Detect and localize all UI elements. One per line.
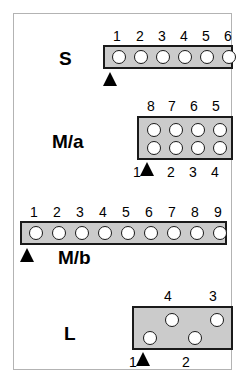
pin-mb-5[interactable] — [121, 226, 135, 240]
connector-body-l — [132, 306, 233, 350]
pin-marker-mb — [20, 248, 34, 262]
pin-l-1[interactable] — [143, 331, 157, 345]
pin-ma-1[interactable] — [147, 141, 161, 155]
connector-group-s: 1 2 3 4 5 6 S — [14, 14, 233, 94]
pin-label-ma-8: 8 — [143, 98, 159, 114]
pin-label-mb-1: 1 — [26, 204, 42, 220]
pin-mb-8[interactable] — [190, 226, 204, 240]
pin-mb-6[interactable] — [144, 226, 158, 240]
pin-s-4[interactable] — [178, 50, 192, 64]
connector-group-l: 4 3 L 1 2 — [14, 286, 233, 371]
connector-group-ma: 8 7 6 5 M/a 1 2 3 4 — [14, 94, 233, 194]
pin-label-mb-2: 2 — [49, 204, 65, 220]
pin-label-ma-b4: 4 — [207, 164, 223, 180]
pin-label-mb-9: 9 — [210, 204, 226, 220]
pin-label-s-1: 1 — [109, 28, 125, 44]
pin-label-mb-7: 7 — [164, 204, 180, 220]
pin-mb-3[interactable] — [75, 226, 89, 240]
pin-label-mb-8: 8 — [187, 204, 203, 220]
pin-label-mb-6: 6 — [141, 204, 157, 220]
pin-label-s-5: 5 — [198, 28, 214, 44]
pin-ma-8[interactable] — [147, 123, 161, 137]
pin-label-s-4: 4 — [176, 28, 192, 44]
pin-s-3[interactable] — [156, 50, 170, 64]
pin-s-1[interactable] — [112, 50, 126, 64]
pin-label-l-3: 3 — [205, 288, 221, 304]
pin-label-l-b2: 2 — [178, 354, 194, 370]
pin-l-2[interactable] — [188, 331, 202, 345]
pin-marker-s — [103, 72, 117, 86]
pin-s-6[interactable] — [222, 50, 236, 64]
connector-body-ma — [137, 116, 233, 160]
pin-label-ma-5: 5 — [208, 98, 224, 114]
pin-label-s-3: 3 — [154, 28, 170, 44]
pin-mb-9[interactable] — [213, 226, 227, 240]
pin-ma-7[interactable] — [169, 123, 183, 137]
pin-label-mb-4: 4 — [95, 204, 111, 220]
pin-ma-6[interactable] — [191, 123, 205, 137]
connector-label-mb: M/b — [58, 248, 91, 268]
connector-label-s: S — [59, 49, 72, 69]
connector-body-s — [103, 45, 233, 69]
pin-label-ma-b3: 3 — [185, 164, 201, 180]
pin-l-3[interactable] — [210, 313, 224, 327]
pin-l-4[interactable] — [165, 313, 179, 327]
pin-label-s-6: 6 — [220, 28, 236, 44]
pin-s-2[interactable] — [134, 50, 148, 64]
pin-label-ma-6: 6 — [186, 98, 202, 114]
pin-ma-3[interactable] — [191, 141, 205, 155]
pin-label-ma-b2: 2 — [163, 164, 179, 180]
connector-pinout-diagram: 1 2 3 4 5 6 S 8 7 6 — [0, 0, 247, 382]
diagram-frame: 1 2 3 4 5 6 S 8 7 6 — [13, 13, 232, 370]
connector-body-mb — [20, 221, 227, 245]
connector-label-ma: M/a — [52, 132, 84, 152]
pin-label-l-4: 4 — [160, 288, 176, 304]
pin-mb-1[interactable] — [29, 226, 43, 240]
pin-label-ma-b1: 1 — [129, 164, 145, 180]
pin-s-5[interactable] — [200, 50, 214, 64]
pin-label-l-b1: 1 — [125, 354, 141, 370]
pin-label-mb-3: 3 — [72, 204, 88, 220]
pin-ma-2[interactable] — [169, 141, 183, 155]
connector-group-mb: 1 2 3 4 5 6 7 8 9 M/ — [14, 196, 233, 286]
pin-label-mb-5: 5 — [118, 204, 134, 220]
pin-mb-7[interactable] — [167, 226, 181, 240]
pin-label-ma-7: 7 — [164, 98, 180, 114]
pin-mb-4[interactable] — [98, 226, 112, 240]
pin-ma-5[interactable] — [213, 123, 227, 137]
connector-label-l: L — [64, 324, 76, 344]
pin-ma-4[interactable] — [213, 141, 227, 155]
pin-mb-2[interactable] — [52, 226, 66, 240]
pin-label-s-2: 2 — [132, 28, 148, 44]
